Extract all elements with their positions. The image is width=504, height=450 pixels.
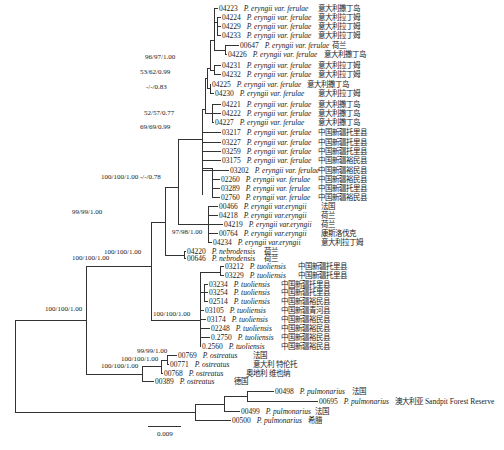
strain-id: 04231 bbox=[222, 61, 241, 70]
origin-location: 中国新疆托里县 bbox=[318, 138, 367, 147]
bootstrap-support-label: 100/100/1.00 bbox=[45, 305, 82, 313]
species-name: P. eryngii var. ferulae bbox=[247, 100, 312, 109]
strain-id: 00695 bbox=[319, 397, 338, 406]
species-name: P. eryngii var. ferulae bbox=[244, 4, 309, 13]
origin-location: 中国新疆青河县 bbox=[281, 306, 330, 315]
origin-location: 意大利撒丁岛 bbox=[324, 50, 366, 59]
species-name: P. eryngii var. ferulae bbox=[247, 109, 312, 118]
species-name: P. pulmonarius bbox=[257, 416, 302, 425]
species-name: P. ostreatus bbox=[180, 377, 215, 386]
tree-leaf: 03105P. tuoliensis bbox=[205, 306, 266, 315]
species-name: P. eryngii var. ferulae bbox=[240, 118, 305, 127]
strain-id: 02248 bbox=[211, 324, 230, 333]
tree-leaf: 04231P. eryngii var. ferulae bbox=[222, 61, 311, 70]
origin-location: 中国新疆裕民县 bbox=[318, 166, 367, 175]
species-name: P. ostreatus bbox=[203, 351, 238, 360]
tree-leaf: 02514P. tuoliensis bbox=[209, 297, 270, 306]
origin-location: 中国新疆裕民县 bbox=[281, 342, 330, 351]
bootstrap-support-label: 100/100/1.00 bbox=[104, 248, 141, 256]
strain-id: 04219 bbox=[224, 220, 243, 229]
origin-location: 意大利拉丁姆 bbox=[318, 70, 360, 79]
strain-id: 03259 bbox=[222, 147, 241, 156]
strain-id: 02260 bbox=[221, 175, 240, 184]
origin-location: 意大利撒丁岛 bbox=[318, 109, 360, 118]
species-name: P. pulmonarius bbox=[266, 407, 311, 416]
strain-id: 00647 bbox=[240, 41, 259, 50]
species-name: P. eryngii var.eryngii bbox=[244, 211, 307, 220]
species-name: P. tuoliensis bbox=[234, 297, 270, 306]
strain-id: 03175 bbox=[222, 156, 241, 165]
strain-id: 00498 bbox=[275, 387, 294, 396]
tree-leaf: 03254P. tuoliensis bbox=[209, 288, 270, 297]
species-name: P. tuoliensis bbox=[250, 271, 286, 280]
origin-location: 中国新疆裕民县 bbox=[281, 297, 330, 306]
tree-leaf: 04234P. eryngii var.eryngii bbox=[213, 238, 301, 247]
strain-id: 00389 bbox=[155, 377, 174, 386]
scale-bar-label: 0.009 bbox=[157, 430, 173, 438]
strain-id: 04221 bbox=[222, 100, 241, 109]
species-name: P. eryngii var. ferulae bbox=[247, 138, 312, 147]
tree-leaf: 04225P. eryngii var. ferulae bbox=[212, 80, 301, 89]
tree-leaf: 00764P. eryngii var.eryngii bbox=[219, 229, 307, 238]
species-name: P. eryngii var. ferulae bbox=[247, 147, 312, 156]
tree-leaf: 03212P. tuoliensis bbox=[225, 262, 286, 271]
origin-location: 澳大利亚 Sandpit Forest Reserve bbox=[395, 397, 494, 406]
tree-leaf: 00647P. eryngii var. ferulae bbox=[240, 41, 329, 50]
strain-id: 04223 bbox=[219, 4, 238, 13]
origin-location: 法国 bbox=[321, 202, 335, 211]
strain-id: 00499 bbox=[241, 407, 260, 416]
strain-id: 04222 bbox=[222, 109, 241, 118]
tree-leaf: 02260P. eryngii var. ferulae bbox=[221, 175, 310, 184]
species-name: P. eryngii var. ferulae bbox=[237, 80, 302, 89]
origin-location: 意大利撒丁岛 bbox=[307, 80, 349, 89]
species-name: P. eryngii var.eryngii bbox=[249, 220, 312, 229]
strain-id: 04226 bbox=[228, 50, 247, 59]
tree-leaf: 04223P. eryngii var. ferulae bbox=[219, 4, 308, 13]
origin-location: 康斯洛伐克 bbox=[321, 229, 356, 238]
bootstrap-support-label: 69/69/0.99 bbox=[140, 123, 170, 131]
strain-id: 04225 bbox=[212, 80, 231, 89]
strain-id: 03289 bbox=[221, 184, 240, 193]
tree-leaf: 0.2750P. tuoliensis bbox=[211, 333, 274, 342]
strain-id: 00466 bbox=[219, 202, 238, 211]
species-name: P. eryngii var. ferulae bbox=[265, 41, 330, 50]
strain-id: 03254 bbox=[209, 288, 228, 297]
origin-location: 中国新疆托里县 bbox=[318, 184, 367, 193]
species-name: P. tuoliensis bbox=[236, 324, 272, 333]
tree-leaf: 03227P. eryngii var. ferulae bbox=[222, 138, 311, 147]
tree-leaf: 04227P. eryngii var. ferulae bbox=[215, 118, 304, 127]
species-name: P. eryngii var. ferulae bbox=[247, 61, 312, 70]
origin-location: 希腊 bbox=[308, 416, 322, 425]
origin-location: 德国 bbox=[234, 377, 248, 386]
strain-id: 02760 bbox=[221, 193, 240, 202]
origin-location: 中国新疆托里县 bbox=[318, 128, 367, 137]
tree-leaf: 03229P. tuoliensis bbox=[225, 271, 286, 280]
tree-leaf: 03202P. eryngii var. ferulae bbox=[230, 166, 319, 175]
species-name: P. eryngii var. ferulae bbox=[255, 166, 320, 175]
species-name: P. tuoliensis bbox=[234, 288, 270, 297]
strain-id: 04224 bbox=[222, 13, 241, 22]
origin-location: 法国 bbox=[352, 387, 366, 396]
origin-location: 意大利 特伦托 bbox=[253, 360, 297, 369]
tree-leaf: 03289P. eryngii var. ferulae bbox=[221, 184, 310, 193]
tree-leaf: 04229P. eryngii var. ferulae bbox=[222, 22, 311, 31]
origin-location: 中国新疆托里县 bbox=[298, 271, 347, 280]
strain-id: 04232 bbox=[222, 70, 241, 79]
bootstrap-support-label: -/-/0.83 bbox=[146, 83, 167, 91]
species-name: P. eryngii var.eryngii bbox=[244, 202, 307, 211]
origin-location: 荷兰 bbox=[321, 220, 335, 229]
tree-leaf: 02760P. eryngii var. ferulae bbox=[221, 193, 310, 202]
tree-leaf: 00389P. ostreatus bbox=[155, 377, 214, 386]
strain-id: 04230 bbox=[215, 89, 234, 98]
origin-location: 中国新疆裕民县 bbox=[281, 333, 330, 342]
bootstrap-support-label: 97/98/1.00 bbox=[172, 228, 202, 236]
species-name: P. tuoliensis bbox=[229, 342, 265, 351]
strain-id: 03174 bbox=[207, 315, 226, 324]
species-name: P. eryngii var. ferulae bbox=[246, 184, 311, 193]
bootstrap-support-label: 99/99/1.00 bbox=[137, 347, 167, 355]
species-name: P. eryngii var. ferulae bbox=[246, 193, 311, 202]
tree-leaf: 00695P. pulmonarius bbox=[319, 397, 389, 406]
tree-leaf: 00771P. ostreatus bbox=[170, 360, 229, 369]
origin-location: 荷兰 bbox=[332, 41, 346, 50]
origin-location: 意大利撒丁岛 bbox=[318, 118, 360, 127]
